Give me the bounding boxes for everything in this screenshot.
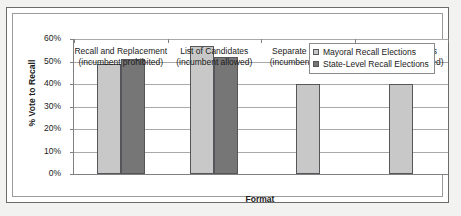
legend-label: State-Level Recall Elections [323,59,429,69]
legend-swatch-icon [313,61,319,67]
y-tick-mark [70,174,74,175]
x-tick-mark [168,39,169,43]
x-category-label-line1: Recall and Replacement [74,46,167,56]
gridline [74,174,448,175]
bar [214,57,238,174]
x-category-label: Recall and Replacement(incumbent prohibi… [68,46,174,68]
chart-figure: % Vote to Recall 0%10%20%30%40%50%60% Re… [0,0,461,216]
x-tick-mark [261,39,262,43]
x-category-label-line2: (incumbent prohibited) [68,57,174,68]
y-tick-mark [70,152,74,153]
y-tick-label: 50% [27,56,61,66]
bar [97,64,121,174]
y-tick-mark [70,107,74,108]
x-category-label-line1: List of Candidates [180,46,248,56]
x-category-label-line2: (incumbent allowed) [162,57,268,68]
y-tick-mark [70,129,74,130]
chart-inner-frame: % Vote to Recall 0%10%20%30%40%50%60% Re… [12,13,443,197]
y-tick-label: 30% [27,101,61,111]
bar [121,59,145,174]
x-axis-title: Format [73,194,447,204]
y-tick-label: 40% [27,78,61,88]
x-category-label: List of Candidates(incumbent allowed) [162,46,268,68]
y-tick-label: 0% [27,168,61,178]
bar [296,84,320,174]
legend-swatch-icon [313,49,319,55]
bar [389,84,413,174]
y-tick-label: 10% [27,146,61,156]
legend-item[interactable]: Mayoral Recall Elections [313,46,429,58]
legend-label: Mayoral Recall Elections [323,47,416,57]
y-tick-mark [70,84,74,85]
legend-item[interactable]: State-Level Recall Elections [313,58,429,70]
chart-legend: Mayoral Recall ElectionsState-Level Reca… [309,43,435,74]
y-axis-title: % Vote to Recall [27,33,37,153]
y-tick-label: 20% [27,123,61,133]
y-tick-label: 60% [27,33,61,43]
x-tick-mark [448,39,449,43]
x-tick-mark [74,39,75,43]
